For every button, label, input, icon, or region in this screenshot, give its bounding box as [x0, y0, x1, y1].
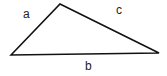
side-b-label: b: [85, 60, 92, 72]
side-c-label: c: [116, 4, 122, 16]
side-a-label: a: [23, 8, 30, 20]
triangle-shape: [11, 4, 159, 55]
